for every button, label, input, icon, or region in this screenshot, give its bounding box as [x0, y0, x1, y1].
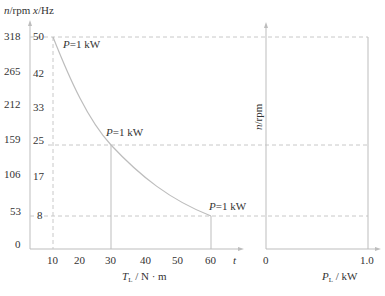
x-tick-60: 60 — [205, 254, 217, 266]
rpm-tick-106: 106 — [4, 168, 21, 180]
right-y-axis-arrow-icon — [264, 22, 268, 28]
right-y-axis-label: n/rpm — [252, 103, 264, 130]
left-y-axis-arrow-icon — [28, 20, 32, 26]
hz-tick-33: 33 — [33, 101, 45, 113]
hz-tick-17: 17 — [33, 170, 45, 182]
x-tick-40: 40 — [140, 254, 152, 266]
rpm-tick-159: 159 — [4, 133, 21, 145]
hz-tick-42: 42 — [33, 67, 44, 79]
annotation-p1-low: P=1 kW — [208, 200, 247, 212]
svg-text:n/rpm x/Hz: n/rpm x/Hz — [4, 4, 54, 16]
chart-canvas: n/rpm x/Hz 318 265 212 159 106 53 0 50 4… — [0, 0, 385, 296]
right-x-axis-title: PL / kW — [321, 270, 358, 284]
right-x-axis-arrow-icon — [375, 247, 381, 251]
right-x-tick-0: 0 — [263, 254, 269, 266]
hz-tick-50: 50 — [33, 30, 45, 42]
x-tick-10: 10 — [47, 254, 59, 266]
left-x-axis-arrow-icon — [238, 247, 244, 251]
x-axis-title: TL / N · m — [122, 270, 167, 284]
rpm-tick-318: 318 — [4, 30, 21, 42]
rpm-tick-265: 265 — [4, 65, 21, 77]
x-axis-end-label: t — [233, 254, 237, 266]
x-tick-50: 50 — [172, 254, 184, 266]
hz-tick-8: 8 — [37, 209, 43, 221]
x-tick-30: 30 — [105, 254, 117, 266]
rpm-tick-0: 0 — [15, 238, 21, 250]
annotation-p1-mid: P=1 kW — [105, 126, 144, 138]
rpm-tick-212: 212 — [4, 98, 21, 110]
annotation-p1-top: P=1 kW — [62, 38, 101, 50]
rpm-tick-53: 53 — [10, 205, 22, 217]
x-tick-20: 20 — [74, 254, 86, 266]
hz-tick-25: 25 — [33, 134, 45, 146]
right-x-tick-1: 1.0 — [360, 254, 374, 266]
